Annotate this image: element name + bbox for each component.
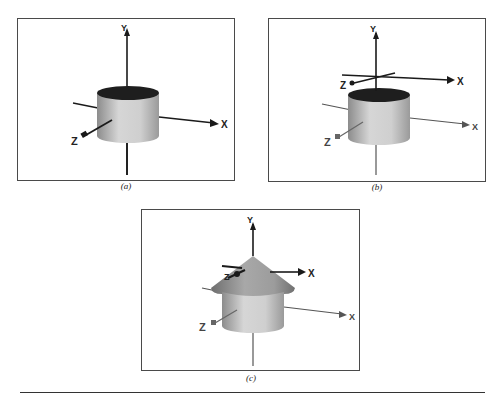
x-axis-label: X: [221, 119, 228, 130]
bottom-rule: [20, 392, 485, 393]
world-x-arrow-icon: [339, 311, 347, 318]
world-x-axis-label: X: [472, 122, 478, 132]
local-x-axis-label: X: [308, 268, 315, 279]
cylinder-top: [97, 86, 159, 100]
caption-b: (b): [357, 182, 397, 192]
world-z-arrow-icon: [211, 320, 216, 325]
local-x-axis-label: X: [457, 76, 464, 87]
world-x-arrow-icon: [462, 121, 470, 128]
world-z-axis-label: Z: [324, 136, 331, 148]
y-axis-label: Y: [121, 23, 127, 33]
world-z-axis-label: Z: [199, 321, 206, 333]
local-z-axis-label: Z: [340, 80, 346, 91]
cylinder-top: [348, 88, 410, 102]
world-z-arrow-icon: [335, 134, 340, 139]
cone-on-cylinder-diagram-c: X Z Y X Z: [142, 210, 361, 372]
local-x-arrow-icon: [447, 76, 455, 84]
z-axis-label: Z: [71, 135, 78, 147]
caption-c: (c): [231, 373, 271, 383]
local-z-arrow-icon: [234, 271, 240, 277]
z-arrow-icon: [80, 131, 88, 138]
cylinder-local-frame-diagram-b: X Z Y X Z: [269, 19, 487, 183]
local-x-arrow-icon: [298, 268, 306, 276]
world-x-axis-label: X: [349, 312, 355, 322]
local-z-axis-label: Z: [224, 272, 230, 282]
panel-b: X Z Y X Z: [268, 18, 486, 182]
panel-a: Y X Z: [17, 18, 235, 181]
x-arrow-icon: [210, 119, 219, 127]
local-z-arrow-icon: [350, 81, 355, 86]
local-y-axis-label: Y: [247, 215, 253, 225]
local-y-axis-label: Y: [370, 24, 376, 34]
cylinder-axes-diagram-a: Y X Z: [18, 19, 236, 182]
panel-c: X Z Y X Z: [141, 209, 360, 371]
caption-a: (a): [106, 181, 146, 191]
